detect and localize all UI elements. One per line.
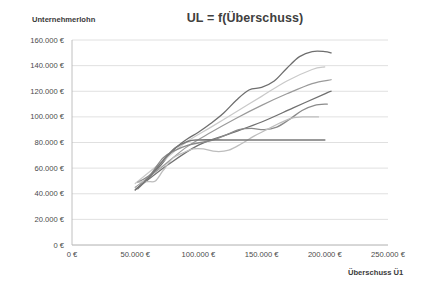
y-axis-title: Unternehmerlohn <box>32 15 95 24</box>
y-tick-label: 120.000 € <box>2 87 64 96</box>
chart-container: Unternehmerlohn UL = f(Überschuss) 0 €20… <box>0 0 436 295</box>
y-tick-label: 140.000 € <box>2 61 64 70</box>
plot-area <box>72 40 388 245</box>
series-paths <box>135 51 331 190</box>
x-tick-label: 0 € <box>39 250 105 259</box>
chart-title: UL = f(Überschuss) <box>150 11 340 25</box>
series-line-6 <box>138 117 319 182</box>
gridlines <box>72 40 388 245</box>
series-line-3 <box>135 80 331 188</box>
y-tick-label: 0 € <box>2 241 64 250</box>
x-tick-label: 250.000 € <box>355 250 421 259</box>
y-tick-label: 20.000 € <box>2 215 64 224</box>
x-tick-label: 150.000 € <box>229 250 295 259</box>
x-tick-label: 100.000 € <box>165 250 231 259</box>
y-tick-label: 100.000 € <box>2 112 64 121</box>
y-tick-label: 40.000 € <box>2 189 64 198</box>
x-tick-label: 50.000 € <box>102 250 168 259</box>
x-tick-label: 200.000 € <box>292 250 358 259</box>
x-axis-title: Überschuss Ü1 <box>348 268 403 277</box>
y-tick-label: 80.000 € <box>2 138 64 147</box>
y-tick-label: 60.000 € <box>2 164 64 173</box>
y-tick-label: 160.000 € <box>2 36 64 45</box>
series-line-5 <box>138 104 328 182</box>
plot-svg <box>72 40 388 245</box>
